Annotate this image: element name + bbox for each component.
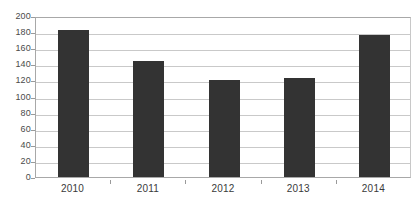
- y-tick-label: 200: [0, 12, 31, 21]
- x-tick-mark: [261, 180, 262, 184]
- x-tick-label: 2012: [198, 183, 248, 194]
- gridline: [36, 66, 410, 67]
- y-tick-label: 80: [0, 109, 31, 118]
- x-axis: 20102011201220132014: [35, 180, 411, 200]
- bar-chart: 020406080100120140160180200 201020112012…: [0, 0, 418, 206]
- y-tick-label: 180: [0, 28, 31, 37]
- y-axis: 020406080100120140160180200: [0, 0, 31, 206]
- x-tick-label: 2010: [48, 183, 98, 194]
- x-tick-label: 2014: [348, 183, 398, 194]
- y-tick-label: 100: [0, 93, 31, 102]
- y-tick-mark: [31, 178, 35, 179]
- y-tick-label: 0: [0, 173, 31, 182]
- bar-2014: [359, 35, 390, 177]
- bar-2012: [209, 80, 240, 177]
- y-tick-label: 60: [0, 125, 31, 134]
- x-tick-label: 2011: [123, 183, 173, 194]
- gridline: [36, 34, 410, 35]
- x-tick-mark: [185, 180, 186, 184]
- bar-2011: [133, 61, 164, 177]
- x-tick-mark: [110, 180, 111, 184]
- y-tick-label: 160: [0, 44, 31, 53]
- x-tick-mark: [336, 180, 337, 184]
- y-tick-label: 140: [0, 60, 31, 69]
- gridline: [36, 50, 410, 51]
- bar-2010: [58, 30, 89, 177]
- bar-2013: [284, 78, 315, 177]
- y-tick-label: 20: [0, 157, 31, 166]
- x-tick-label: 2013: [273, 183, 323, 194]
- y-tick-label: 120: [0, 76, 31, 85]
- plot-area: [35, 17, 411, 178]
- y-tick-label: 40: [0, 141, 31, 150]
